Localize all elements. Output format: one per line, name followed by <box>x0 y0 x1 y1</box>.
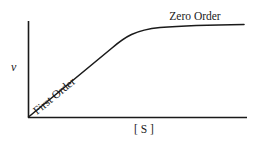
x-axis-label: [ S ] <box>134 123 154 135</box>
kinetics-chart: v [ S ] First Order Zero Order <box>0 0 254 141</box>
y-axis-label: v <box>11 60 17 74</box>
zero-order-label: Zero Order <box>169 10 221 22</box>
velocity-curve <box>29 25 245 118</box>
first-order-label: First Order <box>31 75 78 117</box>
